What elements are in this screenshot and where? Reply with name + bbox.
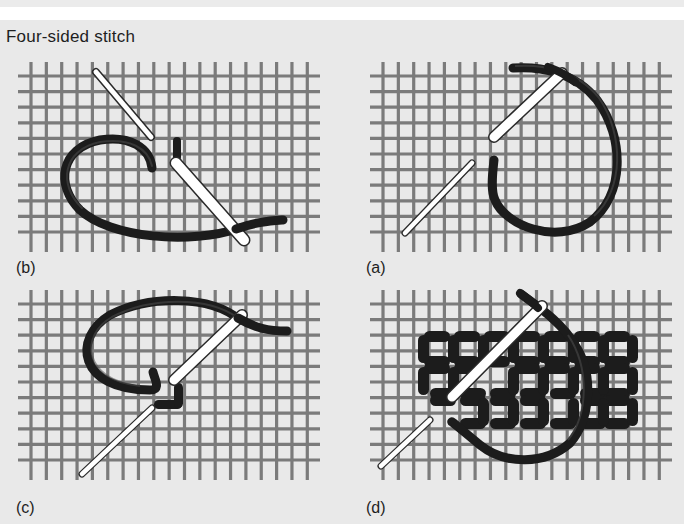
canvas-grid-c <box>18 290 320 480</box>
canvas-grid-d <box>370 290 672 480</box>
stitch-illustrations <box>0 0 684 530</box>
